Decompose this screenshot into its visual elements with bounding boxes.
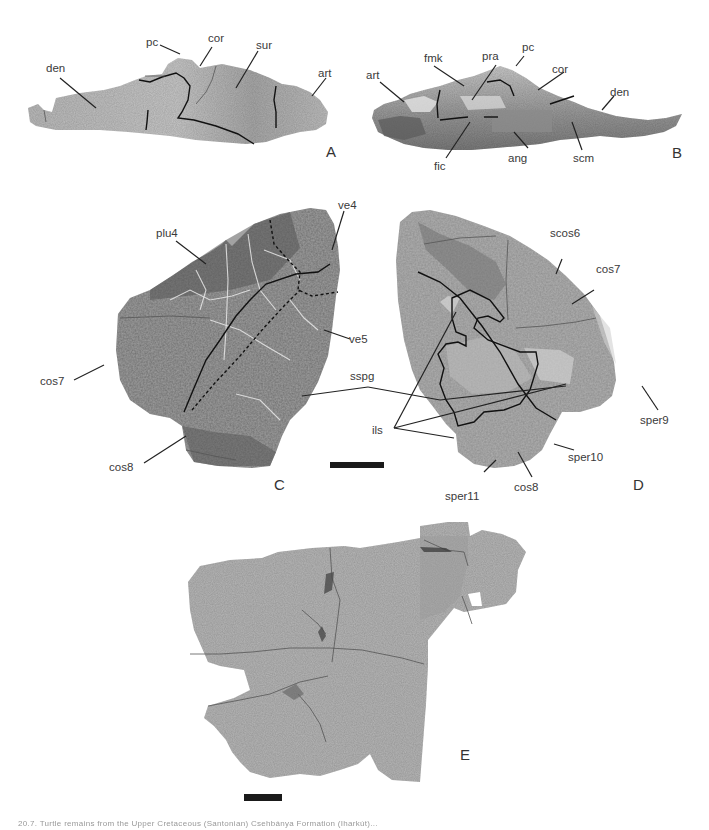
label-b-fmk: fmk <box>424 52 443 64</box>
label-a-den: den <box>46 62 65 74</box>
label-b-pc: pc <box>522 41 534 53</box>
panel-letter-c: C <box>274 476 285 493</box>
label-d-ils: ils <box>372 424 383 436</box>
panel-b: art fmk pra pc cor den fic ang scm B <box>366 41 682 172</box>
label-b-ang: ang <box>508 152 527 164</box>
label-c-plu4: plu4 <box>156 227 178 239</box>
label-sspg: sspg <box>350 370 374 382</box>
label-d-sper9: sper9 <box>640 414 669 426</box>
label-d-sper11: sper11 <box>445 490 479 502</box>
figure-caption: 20.7. Turtle remains from the Upper Cret… <box>18 819 378 828</box>
label-b-pra: pra <box>482 50 499 62</box>
label-d-cos8: cos8 <box>514 481 538 493</box>
label-b-cor: cor <box>552 63 568 75</box>
label-d-sper10: sper10 <box>568 451 603 463</box>
label-a-pc: pc <box>146 36 158 48</box>
label-a-sur: sur <box>256 39 272 51</box>
label-b-art: art <box>366 69 380 81</box>
panel-a: den pc cor sur art A <box>28 32 336 160</box>
label-c-cos8: cos8 <box>109 461 133 473</box>
label-a-art: art <box>318 67 332 79</box>
panel-c: plu4 ve4 ve5 cos7 cos8 C <box>40 199 368 493</box>
panel-letter-d: D <box>633 476 644 493</box>
scale-bar-cd <box>330 462 384 468</box>
label-b-den: den <box>610 86 629 98</box>
label-d-scos6: scos6 <box>550 227 580 239</box>
label-c-ve5: ve5 <box>349 333 368 345</box>
label-d-cos7: cos7 <box>596 263 620 275</box>
label-b-fic: fic <box>434 160 446 172</box>
specimen-e-shell-fragment <box>188 522 526 782</box>
panel-e: E <box>188 522 526 782</box>
label-c-ve4: ve4 <box>338 199 357 211</box>
label-c-cos7: cos7 <box>40 375 64 387</box>
scale-bar-e <box>244 794 282 801</box>
panel-letter-a: A <box>326 143 336 160</box>
panel-letter-e: E <box>460 746 470 763</box>
figure-plate: den pc cor sur art A art fmk pra pc cor … <box>0 0 709 830</box>
panel-letter-b: B <box>672 144 682 161</box>
label-a-cor: cor <box>208 32 224 44</box>
panel-d: scos6 cos7 sper9 sper10 sper11 cos8 ils … <box>372 210 669 502</box>
label-b-scm: scm <box>573 152 594 164</box>
specimen-a-lower-jaw-lateral <box>28 58 328 144</box>
